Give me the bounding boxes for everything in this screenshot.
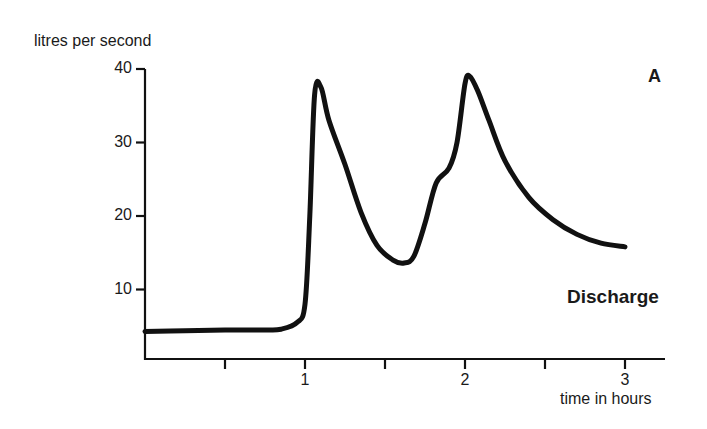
chart-canvas [0,0,707,429]
discharge-line [145,75,625,331]
axes [136,69,665,369]
